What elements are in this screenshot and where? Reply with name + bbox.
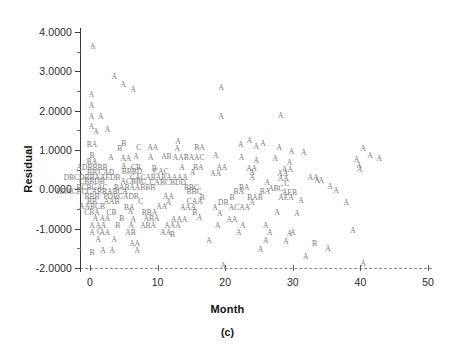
data-point-marker: A <box>250 199 255 207</box>
y-tick-minor <box>77 91 81 92</box>
data-point-marker: A <box>89 102 94 110</box>
data-point-marker: A <box>267 229 272 237</box>
data-point-marker: A <box>112 237 117 245</box>
y-tick-label: 1.0000 <box>12 144 72 156</box>
data-point-marker: BA <box>194 144 204 152</box>
data-point-marker: A <box>197 214 202 222</box>
data-point-marker: A <box>133 153 138 161</box>
data-point-marker: A <box>343 199 348 207</box>
data-point-marker: A <box>290 229 295 237</box>
y-tick <box>75 71 81 72</box>
x-tick <box>293 265 294 271</box>
data-point-marker: A <box>89 230 94 238</box>
data-point-marker: A <box>218 84 223 92</box>
data-point-marker: C <box>284 180 289 188</box>
data-point-marker: B <box>229 194 234 202</box>
data-point-marker: A <box>148 155 153 163</box>
data-point-marker: A <box>263 238 268 246</box>
data-point-marker: A <box>220 262 225 270</box>
data-point-marker: B <box>115 222 120 230</box>
data-point-marker: AA <box>210 170 221 178</box>
data-point-marker: A <box>360 145 365 153</box>
data-point-marker: A <box>217 210 222 218</box>
data-point-marker: A <box>278 112 283 120</box>
x-axis-title: Month <box>0 303 455 315</box>
data-point-marker: A <box>294 210 299 218</box>
data-point-marker: A <box>250 174 255 182</box>
data-point-marker: AEA <box>278 195 293 203</box>
y-tick-minor <box>77 52 81 53</box>
data-point-marker: A <box>258 247 263 255</box>
data-point-marker: A <box>89 91 94 99</box>
data-point-marker: A <box>254 143 259 151</box>
data-point-marker: A <box>108 154 113 162</box>
data-point-marker: A <box>298 197 303 205</box>
scatter-plot-area: 4.00003.00002.00001.00000.0000-1.0000-2.… <box>0 0 455 349</box>
data-point-marker: B <box>312 241 317 249</box>
data-point-marker: A <box>303 253 308 261</box>
data-point-marker: A <box>360 260 365 268</box>
data-point-marker: A <box>301 149 306 157</box>
data-point-marker: A <box>90 43 95 51</box>
data-point-marker: A <box>206 238 211 246</box>
data-point-marker: A <box>213 152 218 160</box>
data-point-marker: A <box>215 222 220 230</box>
data-point-marker: A <box>239 154 244 162</box>
data-point-marker: A <box>105 127 110 135</box>
x-tick-label: 40 <box>340 276 380 288</box>
data-point-marker: B <box>117 145 122 153</box>
y-tick-minor <box>77 248 81 249</box>
data-point-marker: A <box>110 248 115 256</box>
data-point-marker: A <box>93 129 98 137</box>
data-point-marker: A <box>277 144 282 152</box>
data-point-marker: A <box>275 209 280 217</box>
data-point-marker: C <box>138 198 143 206</box>
x-tick-label: 20 <box>205 276 245 288</box>
data-point-marker: A <box>260 140 265 148</box>
data-point-marker: A <box>325 245 330 253</box>
data-point-marker: A <box>238 142 243 150</box>
x-tick-label: 0 <box>70 276 110 288</box>
y-tick <box>75 229 81 230</box>
data-point-marker: A <box>218 113 223 121</box>
data-point-marker: AA <box>147 144 158 152</box>
data-point-marker: A <box>135 248 140 256</box>
y-tick <box>75 111 81 112</box>
y-axis-title: Residual <box>22 124 34 214</box>
data-point-marker: A <box>333 188 338 196</box>
y-tick-label: 4.0000 <box>12 26 72 38</box>
data-point-marker: ABA <box>140 222 156 230</box>
y-tick-label: 2.0000 <box>12 105 72 117</box>
panel-caption: (c) <box>0 326 455 338</box>
data-point-marker: AA <box>156 204 167 212</box>
data-point-marker: BA <box>87 141 97 149</box>
figure-panel-c: 4.00003.00002.00001.00000.0000-1.0000-2.… <box>0 0 455 349</box>
data-point-marker: BA <box>234 188 244 196</box>
data-point-marker: A <box>247 137 252 145</box>
data-point-marker: A <box>95 237 100 245</box>
data-point-marker: AAB <box>104 199 120 207</box>
data-point-marker: A <box>289 149 294 157</box>
data-point-marker: A <box>350 227 355 235</box>
y-tick-label: -2.0000 <box>12 262 72 274</box>
x-tick-label: 50 <box>408 276 448 288</box>
data-point-marker: B <box>90 249 95 257</box>
x-tick-label: 10 <box>138 276 178 288</box>
y-tick <box>75 268 81 269</box>
data-point-marker: A <box>367 152 372 160</box>
data-point-marker: A <box>174 145 179 153</box>
data-point-marker: A <box>236 230 241 238</box>
data-point-marker: B <box>170 231 175 239</box>
data-point-marker: A <box>100 248 105 256</box>
y-tick-label: -1.0000 <box>12 223 72 235</box>
data-point-marker: A <box>89 113 94 121</box>
data-point-marker: AB <box>125 229 135 237</box>
data-point-marker: ACAA <box>229 204 250 212</box>
data-point-marker: AA <box>308 174 319 182</box>
data-point-marker: A <box>98 113 103 121</box>
data-point-marker: A <box>357 167 362 175</box>
data-point-marker: A <box>327 184 332 192</box>
data-point-marker: A <box>179 164 184 172</box>
y-tick-label: 3.0000 <box>12 65 72 77</box>
y-tick <box>75 150 81 151</box>
